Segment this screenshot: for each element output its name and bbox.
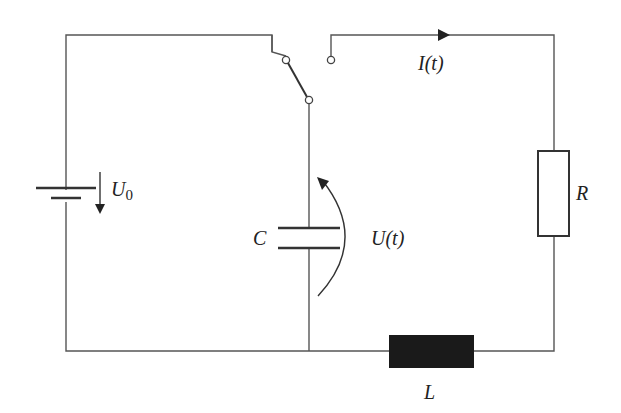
circuit-diagram: U0 C U(t) I(t) R L — [0, 0, 621, 413]
capacitor-label: C — [253, 227, 267, 249]
capacitor-voltage-arrow-icon — [318, 180, 345, 296]
inductor-label: L — [423, 381, 435, 403]
current-label: I(t) — [417, 52, 444, 75]
resistor-label: R — [575, 182, 588, 204]
battery-label: U0 — [111, 178, 133, 203]
switch[interactable] — [282, 56, 334, 103]
resistor-symbol — [538, 151, 569, 236]
current-arrow-icon — [438, 29, 450, 41]
battery-voltage-arrow-icon — [95, 172, 105, 214]
capacitor-symbol — [278, 228, 340, 248]
left-loop-wires — [66, 35, 309, 351]
inductor-symbol — [389, 335, 474, 368]
capacitor-voltage-label: U(t) — [371, 227, 405, 250]
right-loop-wires — [309, 35, 554, 351]
switch-feed-wire — [272, 35, 286, 56]
